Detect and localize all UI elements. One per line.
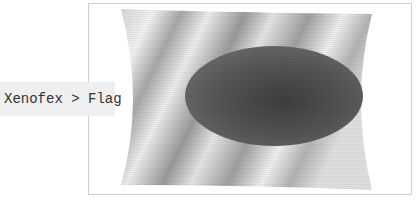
- breadcrumb-label: Xenofex > Flag: [0, 82, 115, 116]
